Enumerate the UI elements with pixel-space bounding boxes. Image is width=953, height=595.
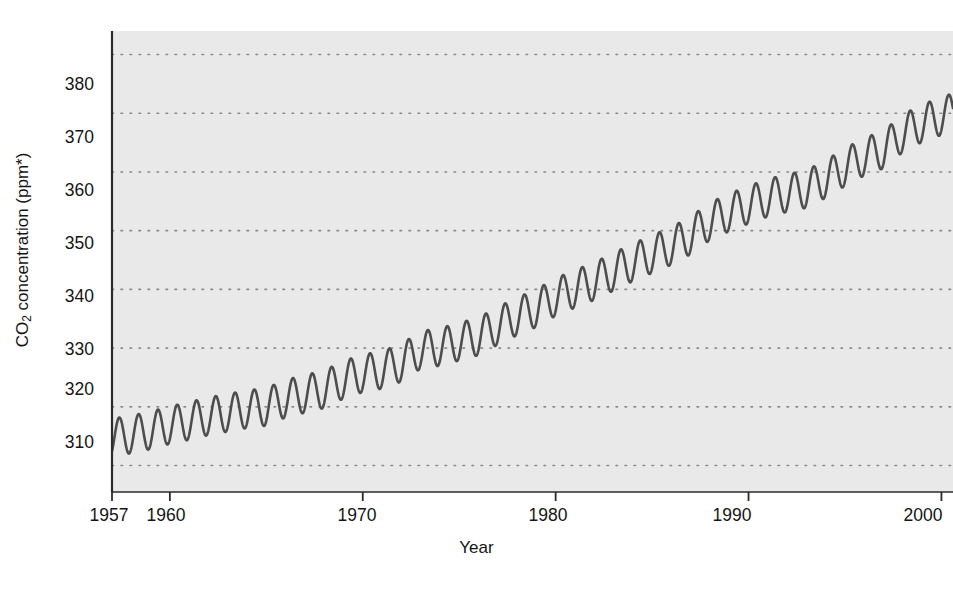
x-axis-ticks-group xyxy=(112,492,941,501)
y-tick-label-340: 340 xyxy=(46,286,94,307)
x-axis-label: Year xyxy=(0,538,953,558)
x-tick-label-1990: 1990 xyxy=(697,505,767,526)
y-tick-label-350: 350 xyxy=(46,233,94,254)
y-tick-label-360: 360 xyxy=(46,180,94,201)
y-tick-label-310: 310 xyxy=(46,432,94,453)
y-axis-label: CO2 concentration (ppm*) xyxy=(13,153,33,348)
y-axis-label-container: CO2 concentration (ppm*) xyxy=(0,0,46,500)
y-axis-label-suffix: concentration (ppm*) xyxy=(13,153,32,316)
y-tick-label-380: 380 xyxy=(46,74,94,95)
y-axis-label-subscript: 2 xyxy=(20,315,34,322)
co2-concentration-chart: CO2 concentration (ppm*) Year 380 370 36… xyxy=(0,0,953,595)
x-tick-label-1970: 1970 xyxy=(322,505,392,526)
y-tick-label-330: 330 xyxy=(46,339,94,360)
y-axis-label-prefix: CO xyxy=(13,322,32,348)
x-tick-label-1980: 1980 xyxy=(513,505,583,526)
x-tick-label-1960: 1960 xyxy=(131,505,201,526)
y-tick-label-320: 320 xyxy=(46,379,94,400)
y-tick-label-370: 370 xyxy=(46,127,94,148)
x-tick-label-2000: 2000 xyxy=(888,505,953,526)
plot-background xyxy=(112,31,953,492)
